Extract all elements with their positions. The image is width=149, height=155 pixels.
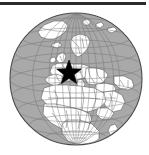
globe-locator-figure [0,0,149,155]
globe-container [0,0,149,155]
globe-svg [0,0,149,155]
